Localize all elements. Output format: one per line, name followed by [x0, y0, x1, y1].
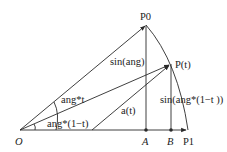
label-a-t: a(t)	[121, 105, 136, 117]
label-b: B	[167, 136, 174, 147]
label-p0: P0	[140, 11, 151, 22]
label-sin-ang-1mt: sin(ang*(1−t ))	[160, 94, 224, 106]
vector-a-t	[92, 66, 169, 131]
label-o: O	[15, 136, 23, 147]
point-b	[169, 128, 173, 132]
label-p1: P1	[183, 136, 194, 147]
vector-o-pt	[20, 65, 169, 130]
label-ang-1mt: ang*(1−t)	[47, 118, 89, 130]
unit-arc	[146, 25, 188, 130]
angle-arc-inner	[34, 124, 35, 130]
slerp-diagram: P0 P(t) O A B P1 sin(ang) ang*t ang*(1−t…	[0, 0, 227, 152]
label-ang-t: ang*t	[61, 94, 84, 105]
label-pt: P(t)	[175, 59, 191, 71]
label-a: A	[141, 136, 149, 147]
point-a	[144, 128, 148, 132]
label-sin-ang: sin(ang)	[110, 56, 145, 68]
